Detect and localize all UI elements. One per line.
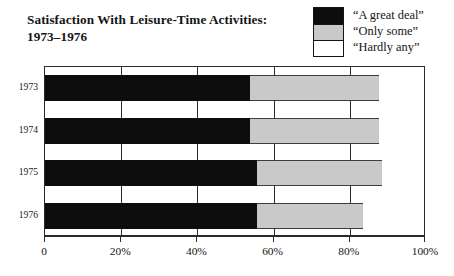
bar-segment <box>250 75 379 101</box>
legend-swatch-only-some <box>314 24 343 40</box>
chart-legend: “A great deal” “Only some” “Hardly any” <box>313 7 424 57</box>
year-label: 1973 <box>19 74 38 100</box>
x-axis-tick-label: 60% <box>262 245 283 257</box>
bar-row <box>45 118 424 144</box>
bar-segment <box>379 75 424 101</box>
chart-title-line-2: 1973–1976 <box>27 28 307 45</box>
x-axis-tick <box>196 236 197 242</box>
x-axis-tick-label: 80% <box>338 245 359 257</box>
bar-segment <box>257 160 382 186</box>
bar-segment <box>250 118 379 144</box>
bars-layer <box>45 67 424 235</box>
bar-segment <box>45 203 257 229</box>
year-label: 1976 <box>19 202 38 228</box>
x-axis-tick <box>120 236 121 242</box>
bar-row <box>45 203 424 229</box>
bar-row <box>45 160 424 186</box>
x-axis-tick <box>349 236 350 242</box>
x-axis <box>44 236 425 244</box>
x-axis-tick <box>273 236 274 242</box>
x-axis-tick-label: 100% <box>412 245 439 257</box>
x-axis-line <box>44 236 425 237</box>
bar-row <box>45 75 424 101</box>
bar-segment <box>379 118 424 144</box>
bar-segment <box>45 160 257 186</box>
legend-label-hardly-any: “Hardly any” <box>353 39 424 55</box>
x-axis-tick-labels: 020%40%60%80%100% <box>44 245 425 261</box>
legend-label-only-some: “Only some” <box>353 23 424 39</box>
legend-swatch-a-great-deal <box>314 8 343 24</box>
chart-title: Satisfaction With Leisure-Time Activitie… <box>27 11 307 46</box>
legend-label-list: “A great deal” “Only some” “Hardly any” <box>353 7 424 55</box>
year-label: 1974 <box>19 117 38 143</box>
bar-segment <box>257 203 363 229</box>
x-axis-tick-label: 20% <box>110 245 131 257</box>
x-axis-tick <box>44 236 45 242</box>
plot-area <box>44 66 425 236</box>
bar-segment <box>382 160 424 186</box>
legend-swatch-stack <box>313 7 344 57</box>
bar-segment <box>45 118 250 144</box>
legend-label-a-great-deal: “A great deal” <box>353 7 424 23</box>
x-axis-tick-label: 40% <box>186 245 207 257</box>
bar-segment <box>363 203 424 229</box>
year-axis-labels: 1973197419751976 <box>0 66 38 236</box>
chart-title-line-1: Satisfaction With Leisure-Time Activitie… <box>27 11 307 28</box>
x-axis-tick-label: 0 <box>41 245 47 257</box>
legend-swatch-hardly-any <box>314 40 343 56</box>
x-axis-tick <box>424 236 425 242</box>
bar-segment <box>45 75 250 101</box>
year-label: 1975 <box>19 159 38 185</box>
